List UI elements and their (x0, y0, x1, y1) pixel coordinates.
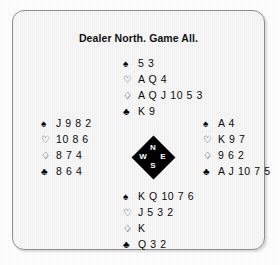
hand-north-clubs-row: ♣ K 9 (123, 103, 203, 119)
hand-east-hearts-row: ♡ K 9 7 (203, 131, 271, 147)
compass-label-east: E (158, 153, 168, 161)
heart-icon: ♡ (123, 205, 134, 221)
hand-east-diamonds-row: ♢ 9 6 2 (203, 147, 271, 163)
spade-icon: ♠ (123, 189, 134, 205)
hand-south-clubs-row: ♣ Q 3 2 (123, 236, 194, 252)
hand-north-diamonds: A Q J 10 5 3 (134, 87, 203, 103)
compass-label-west: W (138, 153, 148, 161)
hand-west-hearts-row: ♡ 10 8 6 (41, 131, 92, 147)
hand-west-clubs: 8 6 4 (52, 163, 82, 179)
bridge-deal-figure: Dealer North. Game All. ♠ 5 3 ♡ A Q 4 ♢ … (0, 0, 280, 265)
hand-south-diamonds-row: ♢ K (123, 220, 194, 236)
hand-east-clubs: A J 10 7 5 (214, 163, 271, 179)
hand-south: ♠ K Q 10 7 6 ♡ J 5 3 2 ♢ K ♣ Q 3 2 (123, 188, 194, 252)
club-icon: ♣ (41, 164, 52, 180)
club-icon: ♣ (203, 164, 214, 180)
compass-label-south: S (148, 162, 158, 170)
hand-south-spades-row: ♠ K Q 10 7 6 (123, 188, 194, 204)
hand-west-clubs-row: ♣ 8 6 4 (41, 163, 92, 179)
deal-panel: Dealer North. Game All. ♠ 5 3 ♡ A Q 4 ♢ … (12, 10, 265, 250)
hand-north-hearts: A Q 4 (134, 71, 167, 87)
hand-east-spades-row: ♠ A 4 (203, 115, 271, 131)
heart-icon: ♡ (203, 132, 214, 148)
heart-icon: ♡ (123, 72, 134, 88)
hand-south-diamonds: K (134, 220, 146, 236)
spade-icon: ♠ (203, 116, 214, 132)
spade-icon: ♠ (41, 116, 52, 132)
hand-west-spades: J 9 8 2 (52, 115, 92, 131)
hand-south-clubs: Q 3 2 (134, 236, 167, 252)
hand-east-hearts: K 9 7 (214, 131, 246, 147)
hand-west: ♠ J 9 8 2 ♡ 10 8 6 ♢ 8 7 4 ♣ 8 6 4 (41, 115, 92, 179)
compass-rose: N W E S (131, 135, 175, 179)
hand-west-spades-row: ♠ J 9 8 2 (41, 115, 92, 131)
hand-north-spades-row: ♠ 5 3 (123, 55, 203, 71)
hand-south-hearts: J 5 3 2 (134, 204, 174, 220)
diamond-icon: ♢ (203, 148, 214, 164)
compass-label-north: N (148, 144, 158, 152)
spade-icon: ♠ (123, 56, 134, 72)
diamond-icon: ♢ (41, 148, 52, 164)
hand-north-spades: 5 3 (134, 55, 154, 71)
hand-north-diamonds-row: ♢ A Q J 10 5 3 (123, 87, 203, 103)
hand-west-hearts: 10 8 6 (52, 131, 89, 147)
hand-south-spades: K Q 10 7 6 (134, 188, 194, 204)
club-icon: ♣ (123, 237, 134, 253)
hand-north-hearts-row: ♡ A Q 4 (123, 71, 203, 87)
hand-east: ♠ A 4 ♡ K 9 7 ♢ 9 6 2 ♣ A J 10 7 5 (203, 115, 271, 179)
hand-south-hearts-row: ♡ J 5 3 2 (123, 204, 194, 220)
hand-north-clubs: K 9 (134, 103, 156, 119)
diamond-icon: ♢ (123, 221, 134, 237)
hand-east-clubs-row: ♣ A J 10 7 5 (203, 163, 271, 179)
diamond-icon: ♢ (123, 88, 134, 104)
club-icon: ♣ (123, 104, 134, 120)
deal-title: Dealer North. Game All. (13, 32, 264, 44)
hand-west-diamonds: 8 7 4 (52, 147, 82, 163)
hand-west-diamonds-row: ♢ 8 7 4 (41, 147, 92, 163)
hand-east-diamonds: 9 6 2 (214, 147, 244, 163)
hand-east-spades: A 4 (214, 115, 235, 131)
heart-icon: ♡ (41, 132, 52, 148)
hand-north: ♠ 5 3 ♡ A Q 4 ♢ A Q J 10 5 3 ♣ K 9 (123, 55, 203, 119)
